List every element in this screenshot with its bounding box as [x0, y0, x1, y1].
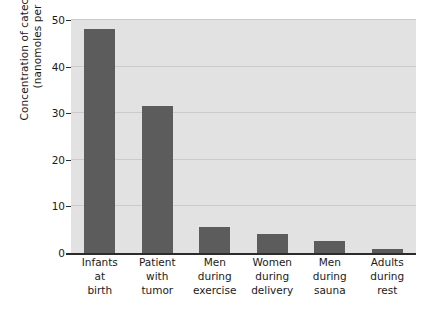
bar [199, 227, 230, 253]
bar-chart-figure: Concentration of catecholamines (nanomol… [0, 0, 437, 311]
y-axis-tick-mark [66, 113, 71, 114]
bar [314, 241, 345, 253]
x-axis-line [66, 253, 416, 255]
x-axis-category-label-line: rest [351, 284, 423, 298]
y-axis-tick-mark [66, 206, 71, 207]
y-axis-tick-label: 20 [40, 155, 65, 166]
y-axis-tick-label: 50 [40, 15, 65, 26]
x-axis-category-label: Adultsduringrest [351, 256, 423, 298]
bars-layer [71, 20, 416, 253]
y-axis-tick-mark [66, 160, 71, 161]
y-axis-tick-mark [66, 67, 71, 68]
y-axis-title-line-1: Concentration of catecholamines [18, 0, 31, 120]
y-axis-tick-label: 0 [40, 248, 65, 259]
y-axis-tick-mark [66, 20, 71, 21]
y-axis-tick-label: 10 [40, 201, 65, 212]
bar [257, 234, 288, 253]
y-axis-tick-mark [66, 253, 71, 254]
y-axis-tick-labels: 50403020100 [40, 20, 65, 253]
plot-area [71, 20, 416, 253]
x-axis-category-label-line: during [351, 270, 423, 284]
bar [142, 106, 173, 253]
bar [84, 29, 115, 253]
x-axis-category-label-line: Adults [351, 256, 423, 270]
y-axis-tick-label: 40 [40, 61, 65, 72]
y-axis-tick-label: 30 [40, 108, 65, 119]
x-axis-category-labels: InfantsatbirthPatientwithtumorMenduringe… [71, 256, 416, 308]
